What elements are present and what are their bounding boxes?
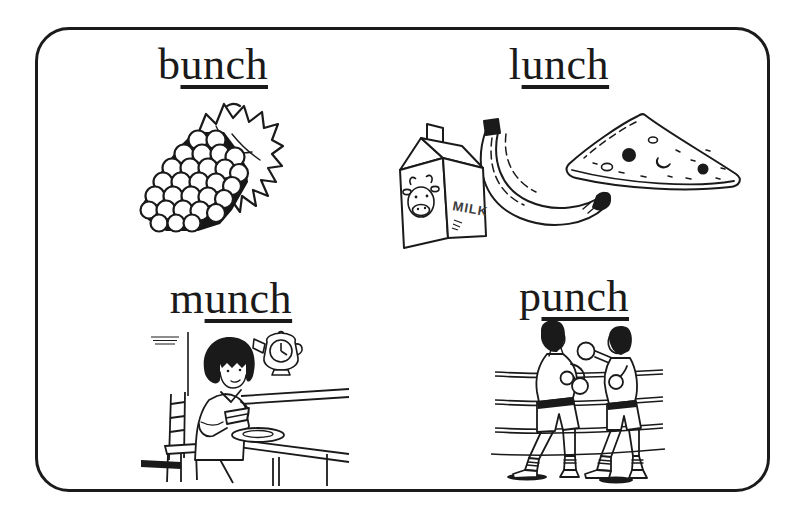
lunch-foods-illustration: MILK: [386, 106, 751, 254]
milk-carton: MILK: [400, 124, 489, 248]
grapes-illustration: [136, 100, 288, 242]
baseboard: [141, 460, 181, 469]
onset-munch: m: [170, 274, 205, 323]
worksheet-frame: bunch lunch: [35, 27, 770, 492]
pizza-slice: [567, 114, 740, 189]
word-lunch: lunch: [464, 42, 654, 88]
boxer-right: [578, 326, 648, 478]
word-munch: munch: [136, 276, 326, 322]
boxers-illustration: [481, 316, 696, 491]
word-punch: punch: [479, 274, 669, 320]
chair: [165, 392, 199, 482]
rime-bunch: unch: [180, 40, 268, 89]
word-bunch: bunch: [118, 42, 308, 88]
girl-eating-illustration: [141, 330, 351, 488]
rime-lunch: unch: [522, 40, 610, 89]
onset-punch: p: [519, 272, 542, 321]
teapot-clock-icon: [253, 332, 302, 375]
onset-lunch: l: [509, 40, 522, 89]
plate: [232, 428, 284, 442]
grape-cluster: [141, 131, 249, 232]
rime-munch: unch: [205, 274, 293, 323]
rime-punch: unch: [541, 272, 629, 321]
onset-bunch: b: [158, 40, 181, 89]
wall: [151, 332, 188, 396]
worksheet-page: { "page": { "background": "#ffffff", "fr…: [0, 0, 799, 509]
